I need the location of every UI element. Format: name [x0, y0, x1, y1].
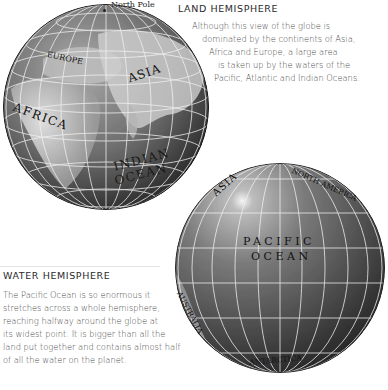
water-text-line: of all the water on the planet.	[3, 354, 180, 367]
land-hemisphere-heading: LAND HEMISPHERE	[178, 3, 278, 14]
water-hemisphere-description: The Pacific Ocean is so enormous it stre…	[3, 289, 180, 367]
water-text-line: land put together and contains almost ha…	[3, 341, 180, 354]
water-text-line: its widest point. It is bigger than all …	[3, 328, 180, 341]
land-hemisphere-description: Although this view of the globe is domin…	[192, 20, 360, 85]
land-text-line: Although this view of the globe is	[192, 20, 360, 33]
water-hemisphere-heading: WATER HEMISPHERE	[3, 270, 110, 281]
north-pole-marker	[103, 9, 106, 12]
land-text-line: is taken up by the waters of the	[218, 59, 360, 72]
water-text-line: The Pacific Ocean is so enormous it	[3, 289, 180, 302]
land-text-line: Pacific, Atlantic and Indian Oceans.	[214, 72, 360, 85]
pacific-ocean-label-line2: OCEAN	[251, 250, 312, 263]
water-text-line: reaching halfway around the globe at	[3, 315, 180, 328]
land-text-line: Africa and Europe, a large area	[209, 46, 360, 59]
land-text-line: dominated by the continents of Asia,	[202, 33, 360, 46]
pacific-ocean-label-line1: PACIFIC	[243, 235, 315, 248]
north-pole-label: North Pole	[111, 0, 155, 9]
water-text-line: stretches across a whole hemisphere,	[3, 302, 180, 315]
section-divider	[0, 266, 160, 267]
